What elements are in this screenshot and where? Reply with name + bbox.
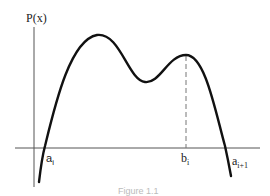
label-a-i-plus-1: ai+1 bbox=[232, 155, 248, 170]
label-b-i-sub: i bbox=[187, 158, 189, 167]
plot-canvas bbox=[0, 0, 270, 196]
y-axis-label: P(x) bbox=[26, 12, 47, 24]
label-a-i-plus-1-sub: i+1 bbox=[237, 161, 248, 170]
label-a-i: ai bbox=[46, 153, 54, 167]
p-x-curve bbox=[39, 35, 231, 182]
figure-caption: Figure 1.1 bbox=[118, 186, 159, 196]
label-b-i: bi bbox=[181, 152, 189, 167]
label-a-i-sub: i bbox=[52, 158, 54, 167]
figure: P(x) ai bi ai+1 Figure 1.1 bbox=[0, 0, 270, 196]
